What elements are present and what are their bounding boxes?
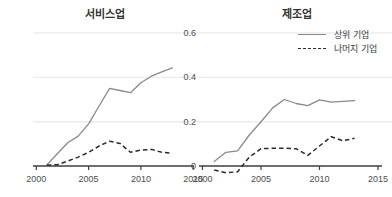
y-tick-label-0: 0 [168, 161, 196, 171]
legend-entry-rest-firms: 나머지 기업 [298, 41, 377, 55]
legend-label-rest-firms: 나머지 기업 [334, 42, 377, 55]
legend-dashed-line-icon [298, 44, 326, 53]
line-manufacturing-top-firms [214, 100, 354, 162]
x-tick-label-2010: 2010 [131, 174, 151, 184]
line-manufacturing-rest-firms [214, 137, 354, 173]
y-tick-label-0.4: 0.4 [168, 72, 196, 82]
legend-label-top-firms: 상위 기업 [334, 28, 369, 41]
legend-solid-line-icon [298, 30, 326, 39]
x-tick-label-2005: 2005 [251, 174, 271, 184]
x-tick-label-2010: 2010 [309, 174, 329, 184]
x-tick-label-2015: 2015 [368, 174, 388, 184]
chart-panel-manufacturing: 제조업 상위 기업 나머지 기업 [196, 0, 392, 197]
legend-entry-top-firms: 상위 기업 [298, 27, 377, 41]
chart-legend: 상위 기업 나머지 기업 [298, 27, 377, 55]
x-tick-label-2005: 2005 [79, 174, 99, 184]
x-tick-label-2000: 2000 [26, 174, 46, 184]
chart-figure: 서비스업 0.6 0.4 0.2 0 2000 2005 2010 201 [0, 0, 392, 197]
chart-panel-services: 서비스업 0.6 0.4 0.2 0 2000 2005 2010 201 [0, 0, 196, 197]
x-tick-label-2000: 2000 [192, 174, 212, 184]
y-tick-label-0.2: 0.2 [168, 117, 196, 127]
plot-area-services [0, 0, 196, 197]
y-tick-label-0.6: 0.6 [168, 28, 196, 38]
